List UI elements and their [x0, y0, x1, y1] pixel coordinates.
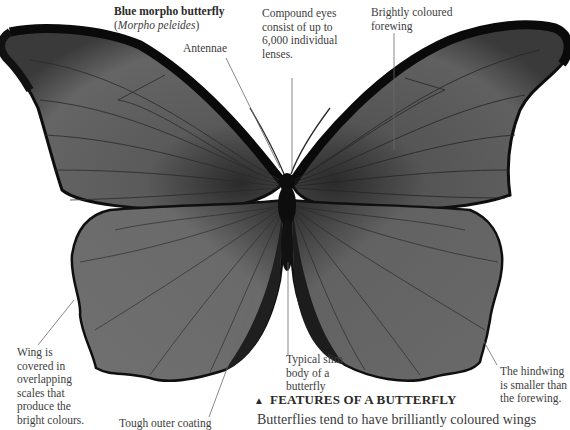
- species-title: Blue morpho butterfly (Morpho peleides): [114, 4, 225, 32]
- label-outer-coating: Tough outer coating: [119, 417, 211, 430]
- butterfly-illustration: [0, 0, 570, 430]
- scientific-name: (Morpho peleides): [114, 18, 225, 32]
- label-line: the forewing.: [500, 392, 567, 406]
- label-line: Brightly coloured: [371, 6, 452, 20]
- triangle-up-icon: ▲: [254, 395, 264, 406]
- label-line: Compound eyes: [262, 7, 337, 21]
- section-body-text: Butterflies tend to have brilliantly col…: [257, 412, 536, 428]
- label-body: Typical slim body of a butterfly: [286, 353, 343, 394]
- label-antennae: Antennae: [183, 42, 227, 56]
- label-wing-scales: Wing is covered in overlapping scales th…: [17, 346, 84, 427]
- left-hindwing: [72, 200, 284, 381]
- label-line: is smaller than: [500, 379, 567, 393]
- label-line: bright colours.: [17, 414, 84, 428]
- label-line: body of a: [286, 367, 343, 381]
- textbook-page: Blue morpho butterfly (Morpho peleides) …: [0, 0, 570, 430]
- scientific-name-text: Morpho peleides: [118, 19, 196, 31]
- hindwing-leader-line: [483, 340, 497, 365]
- label-compound-eyes: Compound eyes consist of up to 6,000 ind…: [262, 7, 337, 61]
- wing-scales-leader-line: [38, 300, 74, 345]
- section-heading: ▲FEATURES OF A BUTTERFLY: [254, 392, 457, 408]
- label-line: overlapping: [17, 373, 84, 387]
- label-line: scales that: [17, 387, 84, 401]
- label-line: Typical slim: [286, 353, 343, 367]
- label-line: 6,000 individual: [262, 34, 337, 48]
- common-name: Blue morpho butterfly: [114, 4, 225, 18]
- label-line: The hindwing: [500, 365, 567, 379]
- label-forewing: Brightly coloured forewing: [371, 6, 452, 33]
- label-hindwing: The hindwing is smaller than the forewin…: [500, 365, 567, 406]
- label-line: forewing: [371, 20, 452, 34]
- label-line: lenses.: [262, 48, 337, 62]
- label-line: produce the: [17, 400, 84, 414]
- section-heading-text: FEATURES OF A BUTTERFLY: [270, 392, 457, 407]
- label-line: covered in: [17, 360, 84, 374]
- left-forewing: [1, 28, 283, 210]
- label-line: Wing is: [17, 346, 84, 360]
- label-line: consist of up to: [262, 21, 337, 35]
